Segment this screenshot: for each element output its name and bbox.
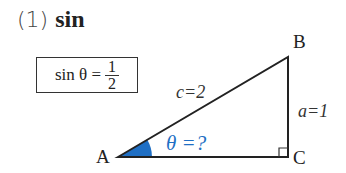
right-angle-marker [279, 148, 288, 157]
vertex-label-a: A [96, 146, 110, 167]
hypotenuse-label: c=2 [176, 82, 205, 102]
vertex-label-b: B [293, 31, 306, 52]
vertex-label-c: C [293, 147, 306, 168]
angle-label: θ =? [166, 131, 207, 155]
opposite-side-label: a=1 [298, 101, 328, 121]
triangle-diagram: A B C c=2 a=1 θ =? [0, 0, 346, 173]
